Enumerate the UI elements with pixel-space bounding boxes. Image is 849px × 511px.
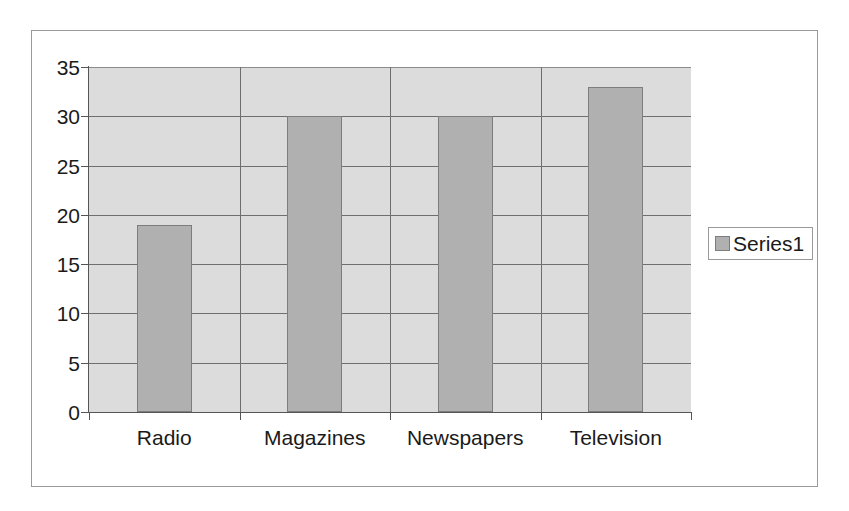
x-axis-label-radio: Radio [89, 427, 240, 448]
bar-radio[interactable] [137, 225, 192, 412]
bar-magazines[interactable] [287, 116, 342, 412]
y-axis-label-35: 35 [36, 57, 80, 78]
y-axis-tick-20 [81, 215, 88, 216]
plot-area [89, 67, 691, 412]
gridline-category-1 [240, 67, 241, 412]
y-axis-tick-5 [81, 363, 88, 364]
y-axis-label-30: 30 [36, 106, 80, 127]
y-axis-label-15: 15 [36, 254, 80, 275]
y-axis-label-5: 5 [36, 352, 80, 373]
y-axis-label-10: 10 [36, 303, 80, 324]
x-axis-tick-1 [240, 413, 241, 420]
x-axis-label-magazines: Magazines [240, 427, 391, 448]
bar-newspapers[interactable] [438, 116, 493, 412]
gridline-category-3 [541, 67, 542, 412]
bar-television[interactable] [588, 87, 643, 412]
y-axis-line [88, 66, 89, 413]
y-axis-label-25: 25 [36, 155, 80, 176]
legend-swatch-series1 [715, 236, 730, 251]
legend-label-series1: Series1 [733, 233, 804, 254]
y-axis-tick-30 [81, 116, 88, 117]
x-axis-tick-4 [691, 413, 692, 420]
chart-legend[interactable]: Series1 [708, 227, 813, 260]
x-axis-tick-3 [541, 413, 542, 420]
chart-frame: 05101520253035 RadioMagazinesNewspapersT… [31, 30, 818, 487]
x-axis-label-television: Television [541, 427, 692, 448]
y-axis-label-20: 20 [36, 204, 80, 225]
gridline-category-2 [390, 67, 391, 412]
y-axis-label-0: 0 [36, 402, 80, 423]
x-axis-tick-2 [390, 413, 391, 420]
y-axis-tick-labels: 05101520253035 [32, 31, 80, 486]
y-axis-tick-10 [81, 313, 88, 314]
x-axis-tick-0 [89, 413, 90, 420]
x-axis-label-newspapers: Newspapers [390, 427, 541, 448]
y-axis-tick-0 [81, 412, 88, 413]
y-axis-tick-15 [81, 264, 88, 265]
y-axis-tick-35 [81, 67, 88, 68]
y-axis-tick-25 [81, 166, 88, 167]
